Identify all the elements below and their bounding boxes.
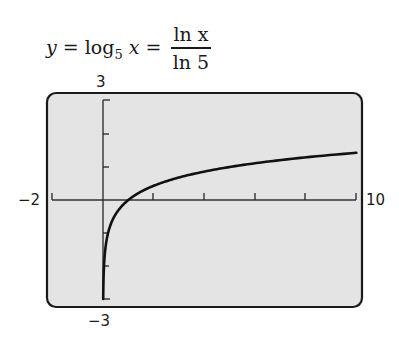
calculator-screen-plot xyxy=(0,0,399,346)
